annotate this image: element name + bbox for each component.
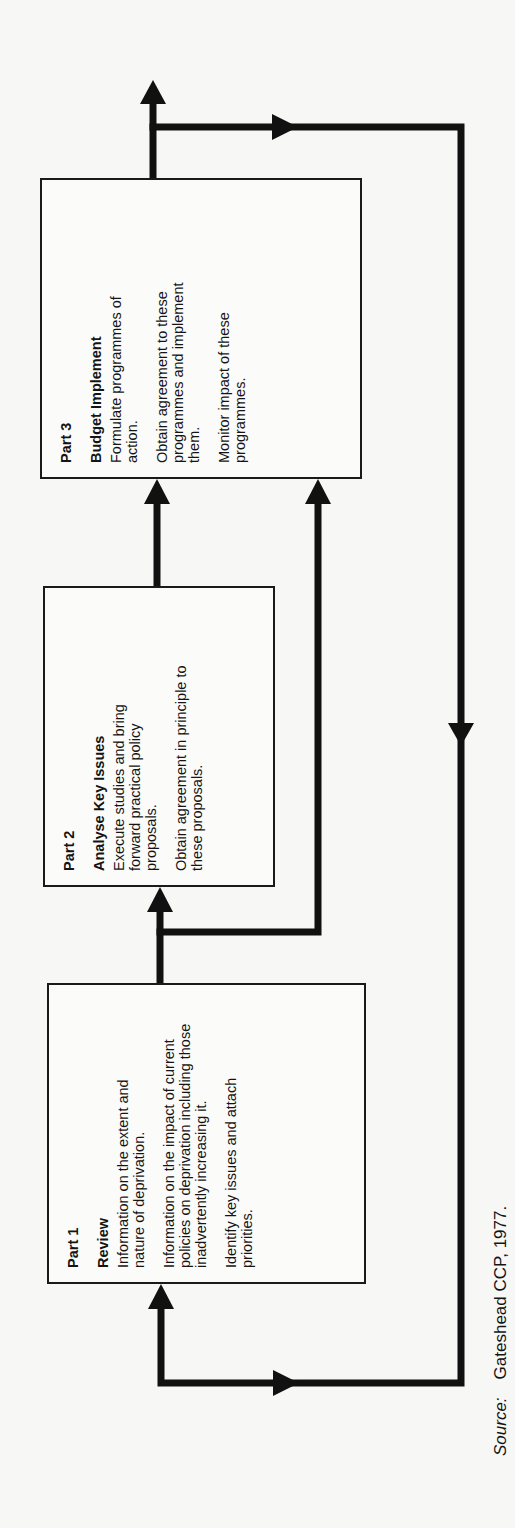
part2-title: Analyse Key Issues — [91, 598, 107, 871]
part2-label: Part 2 — [61, 598, 77, 871]
part3-paragraph-1: Formulate programmes of action. — [108, 273, 140, 463]
source-label: Source: — [491, 1397, 510, 1456]
part3-label: Part 3 — [58, 190, 74, 463]
arrow-right-icon — [272, 114, 298, 140]
arrow-up-icon — [140, 80, 166, 104]
part1-label: Part 1 — [65, 995, 81, 1268]
arrow-up-icon — [147, 887, 173, 912]
part2-content: Part 2 Analyse Key Issues Execute studie… — [45, 588, 273, 885]
arrow-up-icon — [305, 479, 331, 504]
part2-paragraph-1: Execute studies and bring forward practi… — [111, 671, 159, 871]
part3-box: Part 3 Budget Implement Formulate progra… — [40, 178, 362, 479]
part3-paragraph-3: Monitor impact of these programmes. — [216, 283, 248, 463]
source-text: Gateshead CCP, 1977. — [491, 1206, 510, 1380]
source-caption: Source:Gateshead CCP, 1977. — [491, 1206, 511, 1456]
part3-paragraph-2: Obtain agreement to these programmes and… — [154, 258, 202, 463]
arrow-down-icon — [448, 723, 474, 746]
part2-paragraph-2: Obtain agreement in principle to these p… — [173, 646, 205, 871]
arrow-up-icon — [144, 479, 170, 504]
part1-content: Part 1 Review Information on the extent … — [49, 985, 364, 1282]
part1-box: Part 1 Review Information on the extent … — [47, 983, 366, 1284]
part1-paragraph-2: Information on the impact of current pol… — [161, 1023, 209, 1268]
part3-content: Part 3 Budget Implement Formulate progra… — [42, 180, 362, 477]
part1-paragraph-1: Information on the extent and nature of … — [115, 1068, 147, 1268]
arrow-right-icon — [273, 1370, 299, 1396]
part3-title: Budget Implement — [88, 190, 104, 463]
part1-paragraph-3: Identify key issues and attach prioritie… — [223, 1043, 255, 1268]
part2-box: Part 2 Analyse Key Issues Execute studie… — [43, 586, 275, 887]
arrow-up-icon — [148, 1284, 174, 1309]
part1-title: Review — [95, 995, 111, 1268]
